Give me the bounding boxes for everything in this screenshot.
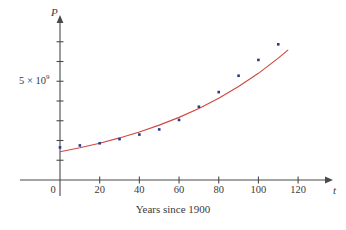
x-axis-tick-label: 120 <box>284 184 312 195</box>
origin-tick-label: 0 <box>45 184 61 195</box>
x-axis-variable-label: t <box>333 184 336 196</box>
data-point <box>257 59 260 62</box>
data-point <box>79 144 82 147</box>
data-point <box>59 146 62 149</box>
y-axis-tick-label-5e9: 5 × 109 <box>19 73 49 86</box>
x-axis-arrow-icon <box>325 177 333 184</box>
data-point <box>98 142 101 145</box>
data-point <box>138 133 141 136</box>
x-axis-tick-label: 40 <box>125 184 153 195</box>
data-point <box>217 91 220 94</box>
y-axis-variable-label: P <box>51 6 58 18</box>
x-axis-tick-label: 100 <box>244 184 272 195</box>
x-axis-tick-label: 80 <box>205 184 233 195</box>
population-scatter-figure: P t 5 × 109 0 20406080100120 Years since… <box>0 0 346 230</box>
figure-caption: Years since 1900 <box>0 203 346 215</box>
x-axis-tick-label: 20 <box>86 184 114 195</box>
data-point-group <box>59 43 280 149</box>
x-axis-tick-label: 60 <box>165 184 193 195</box>
exponential-model-curve <box>60 50 288 152</box>
data-point <box>178 119 181 122</box>
data-point <box>118 138 121 141</box>
data-point <box>158 128 161 131</box>
data-point <box>237 74 240 77</box>
plot-canvas <box>0 0 346 230</box>
data-point <box>198 105 201 108</box>
data-point <box>277 43 280 46</box>
